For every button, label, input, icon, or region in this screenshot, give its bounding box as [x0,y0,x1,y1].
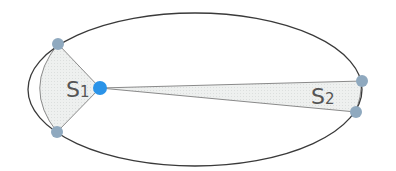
planet-position-right-bottom [350,106,362,118]
planet-position-top-left [52,38,64,50]
kepler-second-law-diagram: S1 S2 [0,0,396,171]
planet-position-right-top [356,75,368,87]
sun-focus [93,81,107,95]
planet-position-bottom-left [51,126,63,138]
